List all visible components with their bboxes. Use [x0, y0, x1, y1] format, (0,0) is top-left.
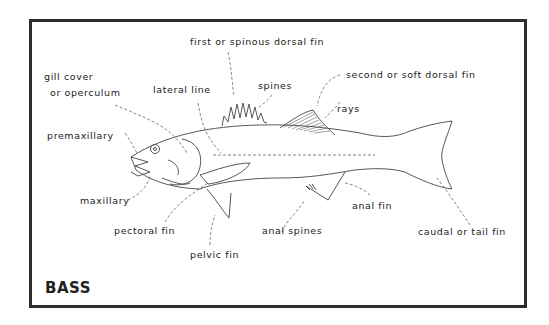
label-second-dorsal-fin: second or soft dorsal fin	[346, 69, 476, 80]
bass-illustration	[0, 0, 549, 325]
label-pectoral-fin: pectoral fin	[114, 225, 175, 236]
label-caudal-fin: caudal or tail fin	[418, 226, 506, 237]
label-premaxillary: premaxillary	[47, 130, 114, 141]
label-anal-spines: anal spines	[262, 225, 322, 236]
label-first-dorsal-fin: first or spinous dorsal fin	[190, 36, 324, 47]
fish-body-outline	[131, 121, 452, 189]
diagram-title: BASS	[45, 279, 91, 297]
gill-cover	[170, 139, 201, 185]
label-anal-fin: anal fin	[352, 200, 392, 211]
label-gill-cover: gill cover	[44, 71, 93, 82]
pelvic-fin	[207, 189, 231, 218]
eye	[151, 145, 160, 154]
label-pelvic-fin: pelvic fin	[190, 249, 239, 260]
label-operculum: or operculum	[50, 87, 120, 98]
label-maxillary: maxillary	[80, 195, 129, 206]
label-spines: spines	[258, 80, 292, 91]
pectoral-fin	[200, 163, 250, 184]
label-lateral-line: lateral line	[153, 84, 211, 95]
label-rays: rays	[337, 103, 360, 114]
